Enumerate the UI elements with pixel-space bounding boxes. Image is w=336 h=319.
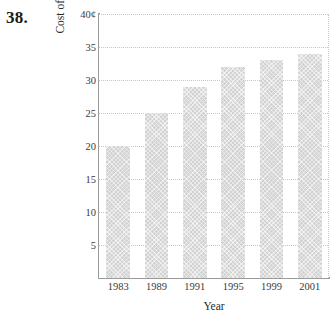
bar — [106, 146, 130, 278]
bar — [183, 87, 207, 278]
x-axis-tick-label: 1995 — [223, 281, 244, 292]
bar — [221, 67, 245, 278]
bar — [298, 54, 322, 278]
y-axis-tick-label: 25 — [68, 108, 96, 119]
chart-screenshot: 38. Cost of first-class postage 51015202… — [0, 0, 336, 319]
problem-number: 38. — [6, 8, 28, 28]
y-axis-tick-labels: 510152025303540¢ — [68, 10, 96, 278]
x-axis-tick-label: 1983 — [108, 281, 129, 292]
x-axis-tick-label: 2001 — [299, 281, 320, 292]
y-axis-tick-label: 5 — [68, 240, 96, 251]
bar — [260, 60, 284, 278]
y-axis-tick-label: 30 — [68, 75, 96, 86]
y-axis-tick-label: 20 — [68, 141, 96, 152]
y-axis-tick-label: 35 — [68, 42, 96, 53]
y-axis-tick-label: 15 — [68, 174, 96, 185]
bars-group — [99, 14, 328, 278]
bar — [145, 113, 169, 278]
y-axis-title: Cost of first-class postage — [52, 0, 68, 74]
x-axis-title: Year — [99, 300, 329, 312]
x-axis-tick-label: 1989 — [146, 281, 167, 292]
plot-area — [99, 14, 329, 278]
x-axis-tick-label: 1991 — [184, 281, 205, 292]
x-axis-tick-label: 1999 — [261, 281, 282, 292]
y-axis-tick-label: 10 — [68, 207, 96, 218]
x-axis-tick-labels: 198319891991199519992001 — [99, 281, 329, 299]
y-axis-tick-label: 40¢ — [68, 9, 96, 20]
